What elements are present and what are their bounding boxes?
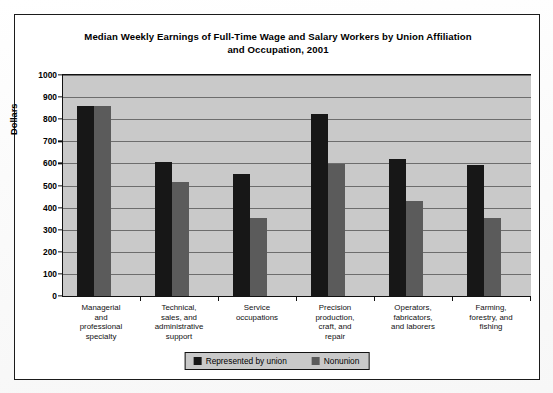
legend-label-nonunion: Nonunion: [324, 356, 360, 366]
gridline-700: [63, 141, 531, 142]
y-tick-label-900: 900: [27, 92, 57, 102]
x-category-label: Managerialandprofessionalspecialty: [59, 303, 143, 341]
y-tick-mark-0: [58, 295, 62, 296]
bar-union: [155, 162, 172, 296]
y-tick-label-700: 700: [27, 136, 57, 146]
x-tick-mark: [140, 297, 141, 301]
gridline-600: [63, 163, 531, 164]
bar-group: [311, 75, 345, 296]
x-tick-mark: [452, 297, 453, 301]
gridline-100: [63, 274, 531, 275]
legend-entry-nonunion: Nonunion: [312, 356, 360, 366]
y-tick-label-200: 200: [27, 247, 57, 257]
y-tick-label-400: 400: [27, 203, 57, 213]
x-tick-mark: [296, 297, 297, 301]
gridline-400: [63, 208, 531, 209]
y-tick-mark-500: [58, 185, 62, 186]
y-tick-label-800: 800: [27, 114, 57, 124]
chart-title-line-1: Median Weekly Earnings of Full-Time Wage…: [84, 31, 471, 42]
x-category-label: Technical,sales, andadministrativesuppor…: [137, 303, 221, 341]
y-tick-label-100: 100: [27, 269, 57, 279]
y-tick-label-300: 300: [27, 225, 57, 235]
bar-nonunion: [172, 182, 189, 296]
gridline-500: [63, 186, 531, 187]
bar-group: [77, 75, 111, 296]
x-tick-mark: [374, 297, 375, 301]
y-tick-mark-100: [58, 273, 62, 274]
x-tick-mark: [218, 297, 219, 301]
gridline-800: [63, 119, 531, 120]
x-category-label: Operators,fabricators,and laborers: [371, 303, 455, 332]
chart-title: Median Weekly Earnings of Full-Time Wage…: [31, 30, 525, 56]
y-tick-mark-1000: [58, 74, 62, 75]
bar-nonunion: [484, 218, 501, 297]
y-tick-mark-400: [58, 207, 62, 208]
y-tick-mark-600: [58, 163, 62, 164]
chart-figure-frame: Median Weekly Earnings of Full-Time Wage…: [14, 14, 540, 380]
bar-group: [467, 75, 501, 296]
legend-entry-union: Represented by union: [194, 356, 287, 366]
bar-nonunion: [250, 218, 267, 297]
bar-union: [311, 114, 328, 296]
y-tick-mark-700: [58, 141, 62, 142]
bar-union: [233, 174, 250, 296]
gridline-200: [63, 252, 531, 253]
gridline-1000: [63, 75, 531, 76]
x-category-label: Farming,forestry, andfishing: [449, 303, 533, 332]
bar-union: [467, 165, 484, 296]
y-axis-title: Dollars: [9, 103, 19, 135]
y-tick-mark-900: [58, 96, 62, 97]
bar-nonunion: [406, 201, 423, 297]
x-tick-mark: [530, 297, 531, 301]
legend-label-union: Represented by union: [206, 356, 287, 366]
legend-swatch-union-icon: [194, 357, 202, 365]
x-category-label: Precisionproduction,craft, andrepair: [293, 303, 377, 341]
bar-group: [233, 75, 267, 296]
gridline-300: [63, 230, 531, 231]
y-tick-label-0: 0: [27, 291, 57, 301]
y-tick-label-600: 600: [27, 158, 57, 168]
chart-legend: Represented by union Nonunion: [185, 352, 370, 370]
bar-union: [77, 106, 94, 296]
y-tick-label-1000: 1000: [27, 70, 57, 80]
y-tick-mark-800: [58, 119, 62, 120]
bar-group: [389, 75, 423, 296]
y-tick-mark-200: [58, 251, 62, 252]
x-category-label: Serviceoccupations: [215, 303, 299, 322]
bar-nonunion: [328, 164, 345, 296]
bar-nonunion: [94, 106, 111, 297]
bar-union: [389, 159, 406, 296]
legend-swatch-nonunion-icon: [312, 357, 320, 365]
bar-group: [155, 75, 189, 296]
chart-title-line-2: and Occupation, 2001: [227, 44, 328, 55]
y-tick-mark-300: [58, 229, 62, 230]
gridline-900: [63, 97, 531, 98]
y-tick-label-500: 500: [27, 181, 57, 191]
plot-area: [62, 75, 531, 297]
